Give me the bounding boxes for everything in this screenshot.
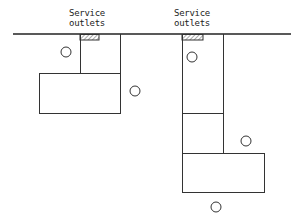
circle-marker (211, 202, 221, 212)
diagram-canvas: Service outlets Service outlets (0, 0, 291, 221)
label-line: outlets (167, 18, 217, 28)
circle-marker (61, 47, 71, 57)
label-line: Service (167, 8, 217, 18)
layout-diagram (0, 0, 291, 221)
right-wide-box (183, 154, 265, 193)
right-outlet-hatch (182, 35, 203, 41)
left-outlet-hatch (80, 35, 99, 41)
service-outlets-label-left: Service outlets (62, 8, 112, 28)
left-layout (40, 34, 121, 114)
circle-marker (187, 52, 197, 62)
right-layout (182, 34, 265, 193)
label-line: Service (62, 8, 112, 18)
service-outlets-label-right: Service outlets (167, 8, 217, 28)
position-markers (61, 47, 251, 212)
label-line: outlets (62, 18, 112, 28)
circle-marker (130, 86, 140, 96)
left-wide-box (40, 74, 121, 114)
circle-marker (241, 136, 251, 146)
